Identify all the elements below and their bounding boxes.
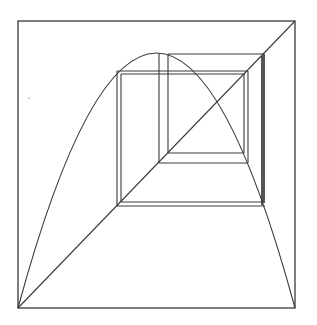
cobweb-diagram xyxy=(0,0,317,325)
map-parabola-curve xyxy=(18,53,295,308)
stray-dot xyxy=(28,97,30,99)
identity-diagonal-line xyxy=(18,21,295,308)
